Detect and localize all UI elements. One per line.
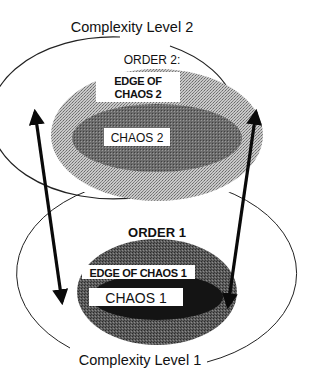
edge-of-chaos-1-label: EDGE OF CHAOS 1 bbox=[90, 267, 187, 279]
complexity-level-2: ORDER 2: EDGE OF CHAOS 2 CHAOS 2 Complex… bbox=[0, 19, 280, 208]
complexity-level-2-title: Complexity Level 2 bbox=[71, 19, 194, 35]
order-1-label: ORDER 1 bbox=[128, 225, 186, 240]
chaos-2-label: CHAOS 2 bbox=[111, 131, 164, 145]
edge-of-chaos-2-label-line2: CHAOS 2 bbox=[115, 88, 162, 100]
order-2-label: ORDER 2: bbox=[124, 53, 181, 67]
edge-of-chaos-2-label-line1: EDGE OF bbox=[114, 75, 162, 87]
chaos-1-label: CHAOS 1 bbox=[105, 290, 167, 306]
complexity-level-1-title: Complexity Level 1 bbox=[79, 352, 202, 368]
complexity-levels-diagram: ORDER 1 EDGE OF CHAOS 1 CHAOS 1 Complexi… bbox=[0, 0, 314, 386]
